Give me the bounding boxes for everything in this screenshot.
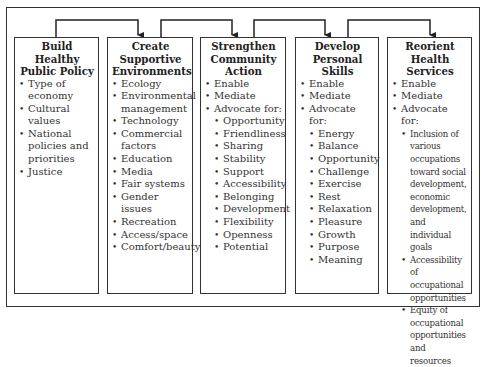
list-item: Advocate for: Inclusion of various occup… — [392, 103, 468, 367]
box-develop-personal-skills: Develop Personal Skills Enable Mediate A… — [295, 37, 379, 294]
sub-list-item: Purpose — [309, 241, 375, 254]
list-item: Gender issues — [112, 191, 189, 216]
sub-list-item: Pleasure — [309, 216, 375, 229]
box-title: Reorient Health Services — [392, 40, 468, 78]
list-item: Education — [112, 153, 189, 166]
list-item: Mediate — [205, 90, 282, 103]
list-item: Enable — [392, 78, 468, 91]
advocate-label: Advocate for: — [214, 103, 282, 114]
list-item: Advocate for: Opportunity Friendliness S… — [205, 103, 282, 254]
sub-list-item: Sharing — [214, 140, 282, 153]
list-item: Fair systems — [112, 178, 189, 191]
list-item: Mediate — [392, 90, 468, 103]
item-list: Enable Mediate Advocate for: Energy Bala… — [300, 78, 375, 267]
box-title: Strengthen Community Action — [205, 40, 282, 78]
sub-list-item: Rest — [309, 191, 375, 204]
sub-list-item: Support — [214, 166, 282, 179]
sub-list-item: Opportunity — [309, 153, 375, 166]
sub-list-item: Meaning — [309, 254, 375, 267]
sub-list-item: Balance — [309, 140, 375, 153]
arrow-policy-to-environments — [56, 20, 138, 37]
box-title: Create Supportive Environments — [112, 40, 189, 78]
box-strengthen-community-action: Strengthen Community Action Enable Media… — [200, 37, 286, 294]
list-item: Type of economy — [19, 78, 95, 103]
sub-list-item: Friendliness — [214, 128, 282, 141]
box-title: Develop Personal Skills — [300, 40, 375, 78]
sub-list-item: Openness — [214, 229, 282, 242]
list-item: Cultural values — [19, 103, 95, 128]
arrow-community-to-skills — [254, 20, 325, 37]
sub-list-item: Energy — [309, 128, 375, 141]
sub-list-item: Challenge — [309, 166, 375, 179]
item-list: Type of economy Cultural values National… — [19, 78, 95, 179]
item-list: Ecology Environmental management Technol… — [112, 78, 189, 254]
sub-list-item: Stability — [214, 153, 282, 166]
list-item: Commercial factors — [112, 128, 189, 153]
sub-list-item: Accessibility — [214, 178, 282, 191]
sub-list-item: Belonging — [214, 191, 282, 204]
list-item: Enable — [300, 78, 375, 91]
item-list: Enable Mediate Advocate for: Opportunity… — [205, 78, 282, 254]
sub-list-item: Opportunity — [214, 115, 282, 128]
sub-list-item: Development — [214, 203, 282, 216]
sub-list-item: Equity of occupational opportunities and… — [401, 304, 468, 367]
advocate-list: Opportunity Friendliness Sharing Stabili… — [214, 115, 282, 254]
list-item: Comfort/beauty — [112, 241, 189, 254]
box-build-healthy-public-policy: Build Healthy Public Policy Type of econ… — [14, 37, 99, 294]
sub-list-item: Growth — [309, 229, 375, 242]
list-item: Mediate — [300, 90, 375, 103]
list-item: Recreation — [112, 216, 189, 229]
list-item: Access/space — [112, 229, 189, 242]
list-item: Justice — [19, 166, 95, 179]
arrow-environments-to-community — [161, 20, 232, 37]
item-list: Enable Mediate Advocate for: Inclusion o… — [392, 78, 468, 367]
sub-list-item: Exercise — [309, 178, 375, 191]
sub-list-item: Flexibility — [214, 216, 282, 229]
list-item: National policies and priorities — [19, 128, 95, 166]
list-item: Environmental management — [112, 90, 189, 115]
sub-list-item: Potential — [214, 241, 282, 254]
advocate-list: Inclusion of various occupations toward … — [401, 128, 468, 367]
box-create-supportive-environments: Create Supportive Environments Ecology E… — [107, 37, 193, 294]
advocate-list: Energy Balance Opportunity Challenge Exe… — [309, 128, 375, 267]
list-item: Enable — [205, 78, 282, 91]
sub-list-item: Relaxation — [309, 203, 375, 216]
list-item: Advocate for: Energy Balance Opportunity… — [300, 103, 375, 267]
list-item: Media — [112, 166, 189, 179]
list-item: Technology — [112, 115, 189, 128]
sub-list-item: Inclusion of various occupations toward … — [401, 128, 468, 254]
sub-list-item: Accessibility of occupational opportunit… — [401, 254, 468, 304]
arrow-skills-to-services — [348, 20, 430, 37]
advocate-label: Advocate for: — [401, 103, 448, 127]
box-reorient-health-services: Reorient Health Services Enable Mediate … — [387, 37, 472, 294]
advocate-label: Advocate for: — [309, 103, 356, 127]
list-item: Ecology — [112, 78, 189, 91]
box-title: Build Healthy Public Policy — [19, 40, 95, 78]
